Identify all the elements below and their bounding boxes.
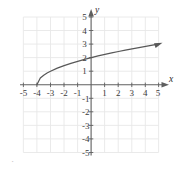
x-axis-label: x	[168, 74, 174, 84]
x-tick-label: 5	[156, 88, 161, 98]
x-axis-arrowhead	[162, 82, 170, 88]
x-tick-label: 4	[143, 88, 148, 98]
y-tick-label: 2	[82, 53, 87, 63]
x-tick-label: -1	[74, 88, 82, 98]
x-tick-label: -3	[47, 88, 55, 98]
coordinate-plane: -5 -4 -3 -2 -1 1 2 3 4 5 5 4 3 2 1 -1 -2…	[0, 0, 178, 170]
y-tick-label: -2	[82, 107, 90, 117]
x-tick-labels: -5 -4 -3 -2 -1 1 2 3 4 5	[20, 88, 161, 98]
y-tick-label: 4	[82, 26, 87, 36]
x-tick-label: 1	[102, 88, 107, 98]
y-tick-label: -3	[82, 121, 90, 131]
x-tick-label: 2	[116, 88, 121, 98]
corner-mark: ▪	[12, 159, 14, 164]
y-tick-label: 1	[82, 66, 87, 76]
y-tick-label: -4	[82, 134, 90, 144]
y-tick-label: 3	[82, 39, 87, 49]
y-tick-label: -1	[82, 94, 90, 104]
y-axis-arrowhead	[88, 9, 94, 17]
graph-figure: -5 -4 -3 -2 -1 1 2 3 4 5 5 4 3 2 1 -1 -2…	[0, 0, 178, 170]
x-tick-label: -2	[60, 88, 68, 98]
x-tick-label: -4	[33, 88, 41, 98]
x-tick-label: -5	[20, 88, 28, 98]
y-axis-label: y	[94, 5, 100, 15]
y-tick-label: -5	[82, 148, 90, 158]
y-tick-label: 5	[82, 12, 87, 22]
function-curve	[37, 43, 163, 85]
x-tick-label: 3	[130, 88, 135, 98]
